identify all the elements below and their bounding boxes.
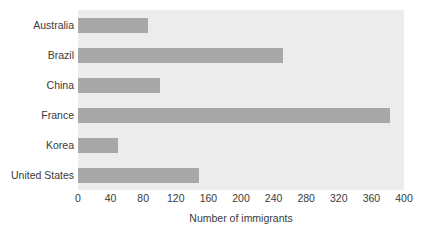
bar xyxy=(78,18,148,33)
bar xyxy=(78,108,390,123)
y-axis-tick-label: Korea xyxy=(0,130,74,160)
x-axis-tick-label: 80 xyxy=(137,192,149,204)
bar-row xyxy=(78,10,404,40)
x-axis-tick-label: 400 xyxy=(395,192,413,204)
x-axis-tick-label: 120 xyxy=(167,192,185,204)
x-axis-tick-label: 360 xyxy=(363,192,381,204)
x-axis-tick-label: 280 xyxy=(297,192,315,204)
x-axis-tick-label: 200 xyxy=(232,192,250,204)
chart-figure: AustraliaBrazilChinaFranceKoreaUnited St… xyxy=(0,0,426,246)
bar-row xyxy=(78,70,404,100)
bar xyxy=(78,48,283,63)
x-axis-tick-label: 320 xyxy=(330,192,348,204)
y-axis-tick-label: France xyxy=(0,100,74,130)
x-axis-title: Number of immigrants xyxy=(78,212,404,224)
bar xyxy=(78,168,199,183)
bar-row xyxy=(78,40,404,70)
bar xyxy=(78,78,160,93)
bar-row xyxy=(78,160,404,190)
bar xyxy=(78,138,118,153)
y-axis-tick-label: Australia xyxy=(0,10,74,40)
y-axis-category-labels: AustraliaBrazilChinaFranceKoreaUnited St… xyxy=(0,10,74,190)
bar-row xyxy=(78,100,404,130)
x-axis-tick-label: 0 xyxy=(75,192,81,204)
x-axis-tick-label: 160 xyxy=(200,192,218,204)
y-axis-tick-label: Brazil xyxy=(0,40,74,70)
y-axis-tick-label: United States xyxy=(0,160,74,190)
plot-area xyxy=(78,10,404,190)
x-axis: 04080120160200240280320360400 xyxy=(78,190,404,210)
x-axis-tick-label: 40 xyxy=(105,192,117,204)
bar-row xyxy=(78,130,404,160)
y-axis-tick-label: China xyxy=(0,70,74,100)
x-axis-tick-label: 240 xyxy=(265,192,283,204)
